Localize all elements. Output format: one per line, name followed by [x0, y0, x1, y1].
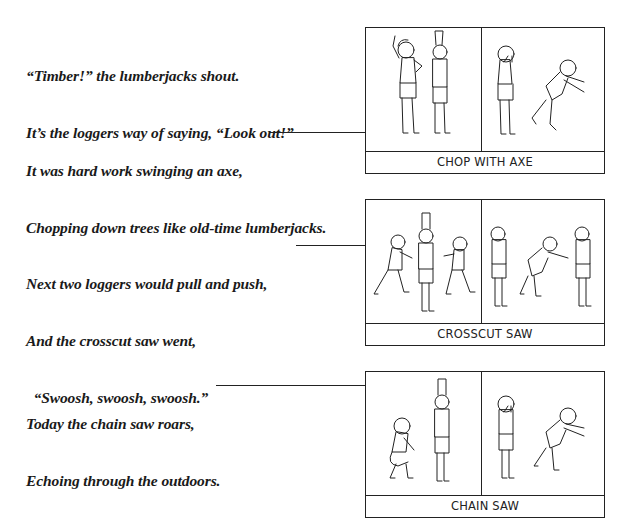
illustration-pose-squat — [366, 372, 481, 495]
illustration-pose-ready — [366, 28, 481, 151]
children-sawing-figure — [366, 200, 481, 323]
verse-line: Today the chain saw roars, — [26, 414, 220, 433]
verse-line: Echoing through the outdoors. — [26, 471, 220, 490]
child-squatting-figure — [366, 372, 481, 495]
child-chopping-figure — [482, 28, 604, 151]
illustration-pose-chop — [482, 28, 604, 151]
connector-line-axe — [270, 132, 365, 133]
illustration-pose-pull-push — [366, 200, 481, 323]
verse-line: “Timber!” the lumberjacks shout. — [26, 66, 294, 85]
verse-line: Next two loggers would pull and push, — [26, 274, 267, 293]
children-swoosh-figure — [482, 200, 604, 323]
panel-caption: CHAIN SAW — [366, 495, 604, 517]
verse-line: Chopping down trees like old-time lumber… — [26, 218, 326, 237]
panel-chain-saw: CHAIN SAW — [365, 371, 605, 518]
verse-line: It was hard work swinging an axe, — [26, 161, 326, 180]
verse-line: And the crosscut saw went, — [26, 331, 267, 350]
panel-caption: CROSSCUT SAW — [366, 323, 604, 345]
panel-crosscut-saw: CROSSCUT SAW — [365, 199, 605, 346]
connector-line-crosscut — [296, 245, 365, 246]
panel-caption: CHOP WITH AXE — [366, 151, 604, 173]
illustration-area — [366, 200, 604, 324]
panel-chop-with-axe: CHOP WITH AXE — [365, 27, 605, 174]
verse-chainsaw: Today the chain saw roars, Echoing throu… — [26, 376, 220, 509]
illustration-area — [366, 372, 604, 496]
child-chainsaw-figure — [482, 372, 604, 495]
illustration-area — [366, 28, 604, 152]
illustration-pose-lunge — [482, 372, 604, 495]
connector-line-chainsaw — [216, 385, 365, 386]
illustration-pose-swoosh — [482, 200, 604, 323]
child-arms-up-figure — [366, 28, 481, 151]
